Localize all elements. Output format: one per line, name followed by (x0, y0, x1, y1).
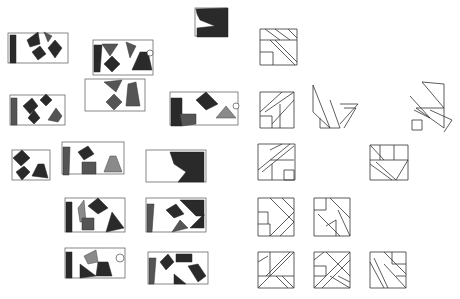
outline-stroke (313, 85, 330, 128)
outline-stroke (314, 198, 326, 210)
shaded-study (146, 150, 206, 182)
circle-shape (233, 103, 239, 109)
outline-stroke (270, 212, 294, 236)
outline-stroke (410, 96, 430, 118)
tangram-piece (66, 252, 72, 278)
tangram-piece (13, 150, 30, 166)
tangram-piece (149, 258, 156, 284)
outline-stroke (265, 92, 294, 112)
tangram-piece (126, 42, 136, 58)
outline-stroke (314, 266, 326, 276)
tangram-piece (27, 32, 40, 47)
tangram-piece (180, 114, 196, 126)
shaded-study (62, 142, 124, 175)
tangram-piece (216, 106, 236, 118)
tangram-piece (188, 264, 206, 282)
outline-stroke (258, 224, 270, 236)
tangram-piece (106, 94, 122, 110)
outline-stroke (314, 252, 324, 260)
shaded-study (65, 248, 125, 278)
tangram-piece (104, 56, 120, 72)
tangram-piece (170, 152, 204, 182)
tangram-piece (32, 46, 46, 60)
outline-stroke (330, 276, 350, 288)
line-study (258, 252, 294, 288)
shaded-study (85, 79, 145, 111)
tangram-piece (176, 254, 192, 262)
tangram-piece (88, 198, 108, 214)
shaded-study (195, 8, 228, 37)
line-study (260, 92, 294, 128)
tangram-piece (44, 32, 52, 42)
line-study (410, 82, 452, 132)
line-studies (258, 29, 452, 288)
outline-stroke (330, 100, 340, 128)
circle-shape (147, 50, 153, 56)
tangram-piece (10, 35, 16, 63)
outline-stroke (284, 170, 294, 180)
tangram-piece (104, 156, 122, 172)
tangram-piece (94, 45, 102, 72)
line-study (258, 144, 295, 180)
tangram-piece (48, 40, 62, 58)
outline-stroke (340, 104, 358, 124)
shaded-study (146, 198, 206, 232)
shaded-study (65, 198, 125, 232)
outline-stroke (338, 210, 350, 236)
shaded-study (12, 150, 50, 180)
line-study (314, 198, 350, 236)
outline-stroke (288, 29, 297, 38)
outline-stroke (338, 276, 350, 282)
outline-stroke (260, 92, 294, 128)
tangram-piece (102, 44, 118, 56)
outline-stroke (270, 144, 282, 150)
line-study (370, 145, 408, 180)
tangram-piece (106, 212, 124, 232)
outline-stroke (258, 256, 268, 262)
tangram-piece (78, 146, 94, 160)
tangram-piece (104, 80, 122, 92)
outline-stroke (326, 220, 336, 236)
line-study (258, 198, 294, 236)
tangram-piece (172, 220, 188, 232)
outline-stroke (384, 252, 406, 274)
tangram-piece (23, 98, 38, 114)
tangram-piece (11, 98, 17, 125)
outline-stroke (282, 198, 294, 210)
shaded-study (93, 40, 153, 75)
line-study (370, 252, 406, 288)
tangram-piece (80, 264, 96, 278)
circle-shape (116, 254, 124, 262)
outline-stroke (282, 276, 294, 288)
outline-stroke (258, 212, 268, 224)
outline-stroke (314, 252, 350, 288)
tangram-piece (96, 262, 112, 276)
outline-stroke (412, 120, 422, 130)
tangram-piece (196, 92, 218, 110)
outline-stroke (370, 145, 384, 160)
shaded-studies (8, 8, 239, 284)
tangram-piece (82, 162, 96, 174)
outline-stroke (270, 198, 294, 222)
line-study (313, 85, 358, 128)
outline-stroke (275, 40, 297, 62)
tangram-piece (63, 147, 70, 175)
tangram-piece (171, 98, 182, 126)
outline-stroke (370, 145, 408, 180)
outline-stroke (262, 146, 294, 172)
shaded-study (170, 92, 239, 126)
outline-stroke (416, 108, 444, 128)
shaded-study (148, 252, 208, 284)
tangram-piece (48, 108, 62, 122)
tangram-piece (32, 164, 48, 178)
tangram-piece (174, 274, 186, 284)
sketch-canvas (0, 0, 460, 299)
line-study (260, 29, 297, 65)
outline-stroke (272, 100, 294, 124)
outline-stroke (422, 82, 444, 108)
outline-stroke (318, 214, 340, 236)
tangram-piece (160, 254, 174, 270)
outline-stroke (260, 52, 273, 65)
tangram-piece (82, 218, 94, 230)
outline-stroke (270, 252, 294, 276)
